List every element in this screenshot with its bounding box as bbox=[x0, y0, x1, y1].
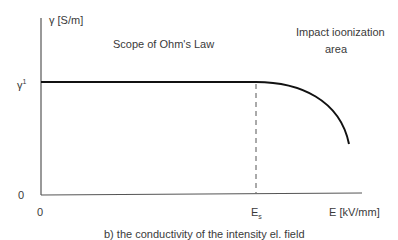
conductivity-curve bbox=[41, 82, 349, 144]
region-impact-line2: area bbox=[296, 43, 376, 56]
y-tick-gamma1: γ1 bbox=[17, 75, 26, 92]
x-axis-label: E [kV/mm] bbox=[329, 206, 380, 219]
region-ohm-label: Scope of Ohm's Law bbox=[113, 38, 214, 51]
x-tick-zero: 0 bbox=[37, 206, 43, 219]
figure-caption: b) the conductivity of the intensity el.… bbox=[104, 228, 305, 240]
gamma-superscript: 1 bbox=[23, 78, 27, 85]
y-axis-label: γ [S/m] bbox=[49, 14, 83, 27]
region-impact-line1: Impact ioonization bbox=[296, 26, 376, 39]
y-tick-zero: 0 bbox=[18, 189, 24, 202]
x-tick-es: Es bbox=[251, 206, 262, 223]
region-impact-label: Impact ioonization area bbox=[296, 26, 376, 56]
x-axis bbox=[41, 193, 362, 195]
es-subscript: s bbox=[258, 213, 262, 220]
